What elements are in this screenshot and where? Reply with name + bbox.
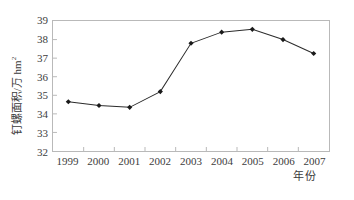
x-axis-tick-labels: 199920002001200220032004200520062007 [52, 155, 330, 169]
y-axis-title-exponent: 2 [10, 57, 18, 61]
y-tick-label: 33 [26, 128, 48, 139]
y-tick-label: 38 [26, 33, 48, 44]
y-tick-label: 34 [26, 109, 48, 120]
x-tick-label: 2007 [295, 155, 335, 168]
data-point-markers [66, 27, 316, 110]
data-point-marker [158, 89, 163, 94]
y-tick-label: 37 [26, 52, 48, 63]
axis-tick-marks [53, 40, 298, 151]
data-point-marker [250, 27, 255, 32]
data-point-marker [311, 51, 316, 56]
data-point-marker [219, 30, 224, 35]
y-tick-label: 32 [26, 147, 48, 158]
top-cropped-text-artifact: · ·· ·· · · [4, 0, 64, 4]
data-point-marker [127, 105, 132, 110]
y-tick-label: 36 [26, 71, 48, 82]
y-axis-title-text: 钉螺面积/万 hm [11, 60, 23, 135]
data-point-marker [188, 41, 193, 46]
line-chart-svg [53, 21, 329, 151]
data-point-marker [66, 99, 71, 104]
x-axis-title: 年份 [270, 170, 340, 183]
plot-area [52, 20, 330, 152]
y-tick-label: 39 [26, 15, 48, 26]
data-point-marker [96, 103, 101, 108]
y-axis-tick-labels: 3233343536373839 [26, 20, 48, 152]
y-axis-title: 钉螺面积/万 hm2 [6, 30, 22, 162]
y-tick-label: 35 [26, 90, 48, 101]
data-point-marker [280, 37, 285, 42]
